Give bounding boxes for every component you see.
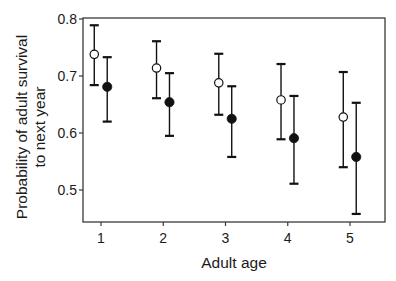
filled-circle-marker [352, 152, 361, 161]
data-point [214, 54, 223, 115]
open-circle-marker [277, 96, 285, 104]
filled-circle-marker [227, 114, 236, 123]
filled-circle-marker [165, 98, 174, 107]
y-axis: 0.50.60.70.8 [58, 11, 83, 198]
open-circle-marker [90, 50, 98, 58]
x-tick-label: 5 [346, 230, 354, 246]
open-circle-marker [152, 64, 160, 72]
y-tick-label: 0.5 [58, 182, 78, 198]
series-open-circle [90, 25, 348, 167]
data-point [339, 72, 348, 167]
x-tick-label: 2 [159, 230, 167, 246]
open-circle-marker [339, 113, 347, 121]
data-point [90, 25, 99, 85]
filled-circle-marker [289, 134, 298, 143]
y-tick-label: 0.6 [58, 125, 78, 141]
data-point [277, 64, 286, 139]
y-tick-label: 0.7 [58, 68, 78, 84]
series-filled-circle [103, 57, 361, 214]
x-tick-label: 1 [97, 230, 105, 246]
x-axis: 12345 [97, 222, 354, 246]
x-tick-label: 4 [284, 230, 292, 246]
x-tick-label: 3 [222, 230, 230, 246]
data-point [227, 86, 236, 157]
data-point [289, 96, 298, 184]
data-point [352, 103, 361, 214]
filled-circle-marker [103, 82, 112, 91]
data-point [103, 57, 112, 121]
open-circle-marker [215, 79, 223, 87]
y-axis-title-line-1: Probability of adult survival [13, 35, 30, 219]
y-tick-label: 0.8 [58, 11, 78, 27]
data-point [165, 73, 174, 136]
data-series [90, 25, 361, 214]
data-point [152, 41, 161, 98]
x-axis-title: Adult age [201, 254, 267, 271]
y-axis-title-line-2: to next year [31, 87, 48, 168]
y-axis-title: Probability of adult survival to next ye… [13, 35, 48, 219]
chart: 0.50.60.70.8 12345 Adult age Probability… [0, 0, 396, 281]
